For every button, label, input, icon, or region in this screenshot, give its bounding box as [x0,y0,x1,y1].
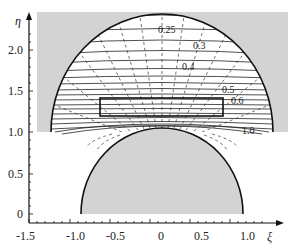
y-tick-label: 0 [17,207,23,221]
y-axis-arrow-icon [26,12,32,20]
contour-label-0-25: 0.25 [158,24,176,35]
contour-chart: 0.25 0.3 0.4 0.5 0.6 1.0 [0,0,298,249]
x-tick-label: -1.5 [16,229,35,243]
x-tick-label: 1.0 [240,229,255,243]
lower-half-disk [81,128,243,214]
contour-label-0-6: 0.6 [231,95,244,106]
contour-label-1-0: 1.0 [242,125,255,136]
y-tick-label: 1.5 [8,84,23,98]
x-tick-label: -1.0 [66,229,85,243]
x-tick-label: 0 [158,229,164,243]
y-tick-label: 0.5 [8,167,23,181]
x-axis-label: ξ [267,230,273,244]
x-tick-label: 0.5 [194,229,209,243]
x-axis-arrow-icon [276,220,284,226]
y-axis-label: η [15,14,21,28]
contour-label-0-3: 0.3 [193,40,206,51]
y-tick-label: 2.0 [8,43,23,57]
contour-label-0-4: 0.4 [182,61,195,72]
y-tick-labels: 0 0.5 1.0 1.5 2.0 η [8,14,23,221]
x-tick-labels: -1.5 -1.0 -0.5 0 0.5 1.0 ξ [16,229,273,244]
x-tick-label: -0.5 [106,229,125,243]
contour-label-0-5: 0.5 [222,84,235,95]
y-tick-label: 1.0 [8,125,23,139]
